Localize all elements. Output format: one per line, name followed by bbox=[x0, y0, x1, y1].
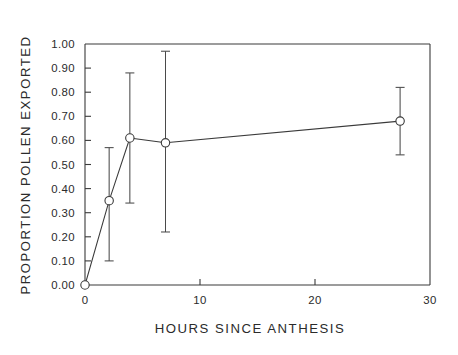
data-point-marker bbox=[161, 139, 169, 147]
x-tick-label: 0 bbox=[82, 294, 89, 306]
data-point-marker bbox=[105, 196, 113, 204]
y-tick-label: 0.10 bbox=[51, 255, 75, 267]
y-tick-label: 1.00 bbox=[51, 38, 75, 50]
x-tick-label: 20 bbox=[308, 294, 321, 306]
x-axis-title: HOURS SINCE ANTHESIS bbox=[155, 321, 345, 336]
y-tick-label: 0.70 bbox=[51, 110, 75, 122]
data-point-marker bbox=[126, 134, 134, 142]
data-point-marker bbox=[396, 117, 404, 125]
y-axis-title: PROPORTION POLLEN EXPORTED bbox=[18, 35, 33, 294]
y-tick-label: 0.30 bbox=[51, 207, 75, 219]
error-bars bbox=[105, 51, 405, 261]
line-chart: 0.000.100.200.300.400.500.600.700.800.90… bbox=[0, 0, 458, 355]
x-tick-label: 30 bbox=[423, 294, 436, 306]
figure-container: 0.000.100.200.300.400.500.600.700.800.90… bbox=[0, 0, 458, 355]
y-tick-label: 0.20 bbox=[51, 231, 75, 243]
y-tick-label: 0.60 bbox=[51, 134, 75, 146]
y-axis-ticks bbox=[85, 68, 91, 261]
axes-frame bbox=[85, 44, 430, 285]
x-axis-ticks bbox=[200, 279, 315, 285]
data-point-marker bbox=[81, 281, 89, 289]
x-tick-label: 10 bbox=[193, 294, 206, 306]
y-tick-label: 0.50 bbox=[51, 159, 75, 171]
x-axis-tick-labels: 0102030 bbox=[82, 294, 437, 306]
y-tick-label: 0.80 bbox=[51, 86, 75, 98]
y-tick-label: 0.90 bbox=[51, 62, 75, 74]
y-axis-tick-labels: 0.000.100.200.300.400.500.600.700.800.90… bbox=[51, 38, 75, 291]
y-tick-label: 0.00 bbox=[51, 279, 75, 291]
y-tick-label: 0.40 bbox=[51, 183, 75, 195]
